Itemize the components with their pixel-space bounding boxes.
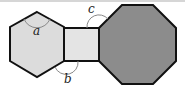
angle-a-label: a [33, 24, 40, 38]
square-shape [64, 28, 99, 61]
polygon-diagram: a b c [0, 0, 185, 92]
angle-c-label: c [88, 2, 95, 16]
hexagon-shape [10, 12, 64, 77]
angle-b-label: b [64, 72, 72, 86]
octagon-shape [99, 5, 176, 84]
